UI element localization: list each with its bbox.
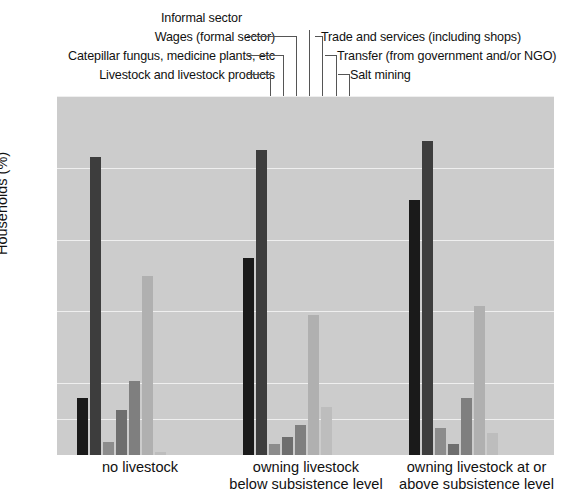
bar — [77, 398, 88, 455]
callout-label-informal-sector: Informal sector — [161, 12, 242, 25]
bar — [487, 433, 498, 455]
bar — [308, 315, 319, 455]
callout-label-transfer: Transfer (from government and/or NGO) — [337, 50, 556, 63]
callout-label-catepillar-fungus: Catepillar fungus, medicine plants, etc — [68, 50, 275, 63]
gridline — [57, 168, 554, 169]
bar — [321, 407, 332, 455]
bar — [295, 425, 306, 456]
plot-area: 01020406080100 — [57, 96, 554, 455]
callout-label-salt-mining: Salt mining — [350, 69, 411, 82]
bar — [448, 444, 459, 455]
bar-chart: Informal sector Wages (formal sector) Tr… — [0, 0, 568, 504]
callout-label-group: Informal sector Wages (formal sector) Tr… — [0, 0, 568, 96]
bar — [474, 306, 485, 455]
gridline — [57, 240, 554, 241]
bar — [103, 442, 114, 455]
bar — [282, 437, 293, 455]
bar — [422, 141, 433, 455]
x-axis-label-below-subsistence: owning livestock below subsistence level — [223, 459, 389, 493]
bar — [461, 398, 472, 455]
callout-label-trade-and-services: Trade and services (including shops) — [321, 31, 521, 44]
bar — [129, 381, 140, 455]
bar — [116, 410, 127, 455]
x-axis-label-above-subsistence: owning livestock at or above subsistence… — [389, 459, 564, 493]
bar — [90, 157, 101, 455]
x-axis-label-no-livestock: no livestock — [57, 459, 223, 476]
bar — [269, 444, 280, 455]
bar — [142, 276, 153, 456]
bar — [435, 428, 446, 455]
callout-label-wages-formal-sector: Wages (formal sector) — [155, 31, 275, 44]
bar — [243, 258, 254, 455]
bar — [256, 150, 267, 455]
y-axis-title: Households (%) — [0, 152, 10, 255]
callout-label-livestock-products: Livestock and livestock products — [99, 69, 275, 82]
bar — [155, 452, 166, 455]
bar — [409, 200, 420, 455]
gridline — [57, 96, 554, 97]
